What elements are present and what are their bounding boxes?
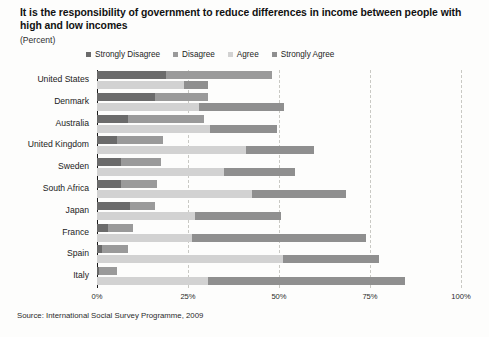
y-axis-label: United States <box>5 74 89 84</box>
bar-segment <box>97 158 121 166</box>
bar-segment <box>210 125 277 133</box>
bar-track-lower <box>97 81 461 89</box>
y-axis-label: Japan <box>5 205 89 215</box>
bar-segment <box>224 168 295 176</box>
bar-track-upper <box>97 93 461 101</box>
legend-swatch-icon <box>173 52 178 57</box>
bar-segment <box>102 245 127 253</box>
bar-group <box>97 266 461 288</box>
bar-segment <box>128 115 204 123</box>
bar-segment <box>97 212 195 220</box>
bar-track-upper <box>97 115 461 123</box>
source-note: Source: International Social Survey Prog… <box>17 311 203 320</box>
bar-track-lower <box>97 255 461 263</box>
bar-segment <box>97 103 199 111</box>
bar-segment <box>195 212 281 220</box>
bar-segment <box>117 136 163 144</box>
bar-segment <box>97 125 210 133</box>
bar-group <box>97 135 461 157</box>
legend-swatch-icon <box>272 52 277 57</box>
bar-group <box>97 244 461 266</box>
y-axis-label: South Africa <box>5 183 89 193</box>
bar-track-upper <box>97 71 461 79</box>
y-axis-label: Sweden <box>5 161 89 171</box>
bar-segment <box>97 180 121 188</box>
y-axis-label: United Kingdom <box>5 139 89 149</box>
bar-group <box>97 92 461 114</box>
bar-group <box>97 70 461 92</box>
bar-segment <box>199 103 285 111</box>
bar-segment <box>184 81 208 89</box>
bar-segment <box>97 224 108 232</box>
bar-segment <box>99 267 117 275</box>
bar-segment <box>155 93 208 101</box>
plot-area <box>97 70 461 288</box>
title-block: It is the responsibility of government t… <box>20 7 465 45</box>
bar-track-lower <box>97 190 461 198</box>
bar-group <box>97 179 461 201</box>
bar-segment <box>121 180 157 188</box>
bar-segment <box>252 190 347 198</box>
legend-item: Strongly Disagree <box>86 50 160 59</box>
bar-segment <box>97 136 117 144</box>
chart-container: It is the responsibility of government t… <box>0 0 489 337</box>
bar-segment <box>97 202 130 210</box>
bar-track-lower <box>97 212 461 220</box>
bar-group <box>97 114 461 136</box>
legend-item: Disagree <box>173 50 215 59</box>
bar-track-lower <box>97 103 461 111</box>
legend-item-label: Strongly Disagree <box>95 50 160 59</box>
bar-track-lower <box>97 277 461 285</box>
legend-swatch-icon <box>86 52 91 57</box>
bar-segment <box>208 277 405 285</box>
bar-segment <box>246 146 313 154</box>
x-axis-labels: 0%25%50%75%100% <box>0 292 489 306</box>
y-axis-label: Denmark <box>5 96 89 106</box>
bar-segment <box>108 224 133 232</box>
bar-track-upper <box>97 202 461 210</box>
chart-legend: Strongly DisagreeDisagreeAgreeStrongly A… <box>86 50 334 59</box>
bar-segment <box>97 168 224 176</box>
legend-item-label: Strongly Agree <box>281 50 335 59</box>
chart-title: It is the responsibility of government t… <box>20 7 465 32</box>
bar-segment <box>97 146 246 154</box>
bar-track-upper <box>97 180 461 188</box>
legend-swatch-icon <box>228 52 233 57</box>
x-axis-tick-label: 100% <box>451 292 470 301</box>
bar-track-upper <box>97 224 461 232</box>
legend-item: Agree <box>228 50 259 59</box>
bar-segment <box>97 81 184 89</box>
bar-segment <box>130 202 155 210</box>
bar-segment <box>192 234 367 242</box>
x-axis-tick-label: 50% <box>271 292 286 301</box>
bar-track-lower <box>97 146 461 154</box>
bar-group <box>97 201 461 223</box>
bar-track-upper <box>97 245 461 253</box>
y-axis-label: Italy <box>5 270 89 280</box>
bar-segment <box>97 71 166 79</box>
bar-segment <box>97 93 155 101</box>
bar-track-upper <box>97 136 461 144</box>
bar-segment <box>97 277 208 285</box>
bar-segment <box>97 190 252 198</box>
bar-track-lower <box>97 125 461 133</box>
bar-segment <box>97 115 128 123</box>
y-axis-labels: United StatesDenmarkAustraliaUnited King… <box>8 70 94 288</box>
bar-segment <box>97 234 192 242</box>
x-axis-tick-label: 0% <box>92 292 103 301</box>
x-gridline <box>461 70 462 288</box>
bar-group <box>97 223 461 245</box>
y-axis-label: Spain <box>5 248 89 258</box>
legend-item-label: Disagree <box>182 50 215 59</box>
bar-group <box>97 157 461 179</box>
x-axis-tick-label: 25% <box>180 292 195 301</box>
y-axis-label: France <box>5 227 89 237</box>
bar-segment <box>97 255 283 263</box>
x-axis-tick-label: 75% <box>362 292 377 301</box>
chart-subtitle: (Percent) <box>20 35 465 45</box>
bar-track-upper <box>97 158 461 166</box>
bar-segment <box>121 158 161 166</box>
bar-track-lower <box>97 234 461 242</box>
legend-item-label: Agree <box>237 50 259 59</box>
bar-track-upper <box>97 267 461 275</box>
